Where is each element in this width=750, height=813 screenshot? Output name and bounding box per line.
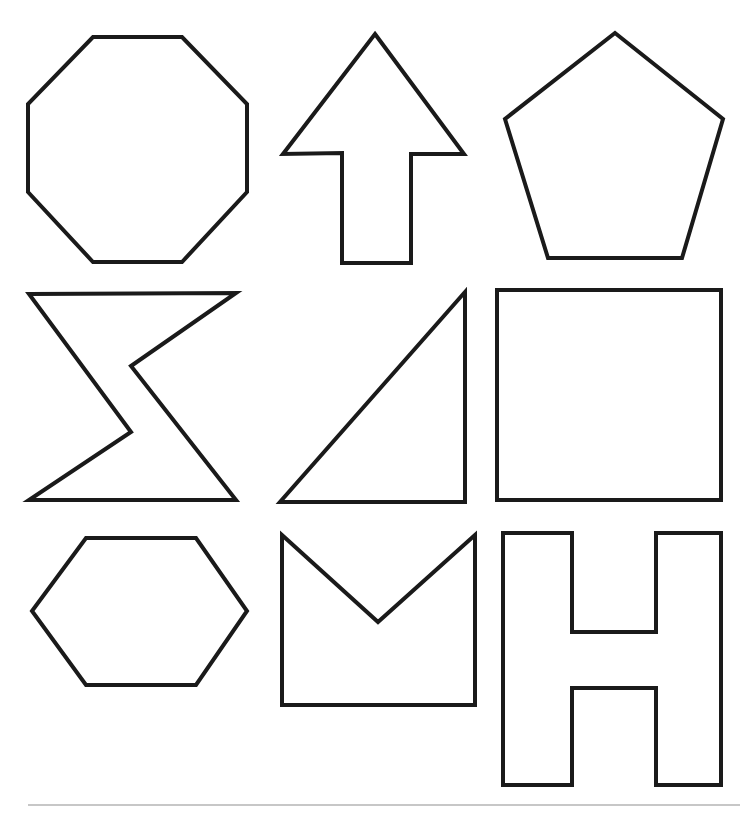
worksheet-page (0, 0, 750, 813)
shape-octagon[interactable] (28, 37, 247, 262)
shape-hexagon[interactable] (32, 538, 247, 685)
shape-bowtie[interactable] (29, 293, 236, 500)
shape-canvas (0, 0, 750, 813)
shape-square[interactable] (497, 290, 721, 500)
shape-letter-h[interactable] (503, 533, 721, 785)
shape-right-triangle[interactable] (280, 292, 465, 502)
shape-chevron-notch-rectangle[interactable] (282, 535, 475, 705)
shape-up-arrow[interactable] (283, 34, 464, 263)
shape-pentagon[interactable] (505, 33, 723, 258)
